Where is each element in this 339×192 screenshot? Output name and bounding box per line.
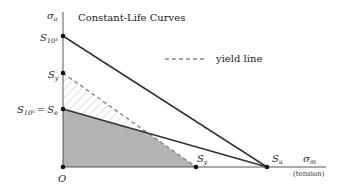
point-Se	[61, 107, 66, 112]
label-Su: Su	[272, 153, 283, 166]
point-Su	[265, 165, 270, 170]
constant-life-diagram: Constant-Life Curves σa S10³ Sy S10⁶=Se …	[0, 0, 339, 192]
label-Se: S10⁶=Se	[17, 104, 58, 117]
point-Sy-axis	[61, 71, 66, 76]
legend-label: yield line	[215, 53, 262, 64]
x-axis-note: (tension)	[293, 170, 325, 178]
y-axis-label: σa	[47, 10, 58, 23]
x-axis-label: σm	[303, 153, 316, 166]
label-Sy-x: Sy	[197, 153, 208, 166]
label-S10e3: S10³	[40, 32, 58, 45]
safe-region	[63, 109, 196, 167]
point-origin	[61, 165, 66, 170]
origin-label: O	[58, 173, 66, 184]
diagram-title: Constant-Life Curves	[78, 12, 185, 23]
label-Sy-axis: Sy	[48, 69, 59, 82]
point-S10e3	[61, 34, 66, 39]
point-Sy-x	[194, 165, 199, 170]
